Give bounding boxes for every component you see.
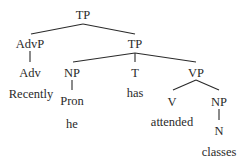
edge-vp-v <box>173 80 196 90</box>
syntax-tree: TPAdvPTPAdvNPTVPRecentlyPronhasVNPheatte… <box>0 0 246 168</box>
tree-node-tp-root: TP <box>76 9 91 22</box>
tree-node-vp: VP <box>188 67 204 80</box>
tree-node-attended: attended <box>151 116 193 129</box>
tree-node-advp: AdvP <box>16 38 44 51</box>
edge-tp_inner-np_subj <box>73 53 135 62</box>
edge-vp-np_obj <box>196 80 219 90</box>
tree-node-recently: Recently <box>9 88 53 101</box>
tree-node-pron: Pron <box>60 95 84 108</box>
edge-tp_root-advp <box>31 24 83 34</box>
tree-node-v: V <box>167 96 176 109</box>
tree-node-he: he <box>66 118 78 131</box>
tree-node-np-obj: NP <box>211 96 227 109</box>
tree-node-np-subj: NP <box>64 67 80 80</box>
tree-node-adv: Adv <box>19 67 41 80</box>
tree-node-t: T <box>131 67 139 80</box>
tree-node-has: has <box>127 87 144 100</box>
tree-node-tp-inner: TP <box>128 38 143 51</box>
tree-edges <box>0 0 246 168</box>
tree-node-classes: classes <box>202 146 237 159</box>
tree-node-n: N <box>214 125 223 138</box>
edge-tp_inner-vp <box>135 53 196 62</box>
edge-tp_root-tp_inner <box>83 24 135 34</box>
